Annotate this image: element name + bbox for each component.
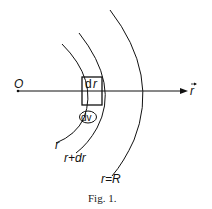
spherical-shell-diagram: O d r dv r r r+dr r=R Fig. 1. [0, 0, 212, 209]
figure-caption: Fig. 1. [88, 192, 117, 204]
origin-label: O [14, 77, 23, 91]
volume-label: dv [81, 112, 92, 123]
middle-shell-label: r+dr [64, 151, 87, 165]
axis-label: r [190, 84, 195, 98]
vector-arrow-head-icon [194, 83, 197, 86]
inner-shell-arc [56, 44, 88, 143]
outer-shell-label: r=R [101, 172, 121, 186]
outer-shell-arc [110, 10, 143, 176]
middle-shell-arc [76, 33, 105, 153]
box-label-r: r [93, 77, 98, 91]
box-label-d: d [85, 77, 92, 91]
inner-shell-label: r [55, 138, 60, 152]
arrow-head-icon [180, 88, 188, 94]
